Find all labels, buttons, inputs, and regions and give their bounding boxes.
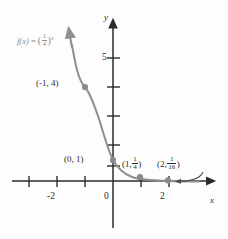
equals-sign: = <box>31 36 36 46</box>
y-axis-label: y <box>104 13 108 22</box>
point-0-1 <box>110 157 116 163</box>
point-d-fraction: 116 <box>167 156 176 171</box>
point-d-numerator: 1 <box>167 156 176 163</box>
axis-group <box>12 27 207 228</box>
x-tick-label-0: 0 <box>104 192 109 202</box>
leader-line <box>180 172 203 181</box>
y-tick-label-5: 5 <box>102 53 107 63</box>
point-c-numerator: 1 <box>132 156 138 163</box>
function-name: f(x) <box>17 36 29 46</box>
point-c-denominator: 4 <box>132 163 138 171</box>
point-label-1-quarter: (1,14) <box>122 156 141 171</box>
function-equation-label: f(x) = (14)x <box>17 33 54 48</box>
point-label-minus1-4: (-1, 4) <box>36 79 59 88</box>
point-label-0-1: (0, 1) <box>64 155 84 164</box>
exponent: x <box>51 35 54 41</box>
base-numerator: 1 <box>42 33 47 40</box>
point-d-prefix: (2, <box>157 159 167 169</box>
x-axis-label: x <box>210 196 214 205</box>
point-minus1-4 <box>82 84 88 90</box>
x-tick-label-2: 2 <box>160 192 165 202</box>
point-d-denominator: 16 <box>167 163 176 171</box>
point-c-prefix: (1, <box>122 159 132 169</box>
base-fraction: 14 <box>42 33 47 48</box>
x-tick-label-minus-2: -2 <box>47 192 55 202</box>
base-denominator: 4 <box>42 40 47 48</box>
curve-arrowhead <box>70 36 72 48</box>
point-1-quarter <box>137 174 143 180</box>
open-paren: ( <box>38 35 41 46</box>
point-label-2-sixteenth: (2,116) <box>157 156 180 171</box>
exponential-decay-graph-figure: f(x) = (14)x y x 5 -2 0 2 (-1, 4) (0, 1)… <box>0 0 228 239</box>
point-2-sixteenth <box>165 177 171 183</box>
point-d-suffix: ) <box>177 159 180 169</box>
point-c-suffix: ) <box>138 159 141 169</box>
point-c-fraction: 14 <box>132 156 138 171</box>
